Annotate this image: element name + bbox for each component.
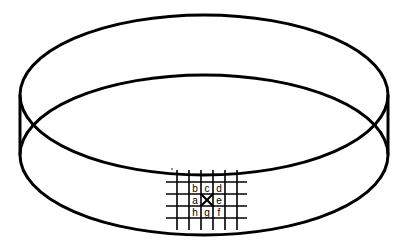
label-e: e [216, 195, 222, 206]
dish-rim-ellipse [20, 15, 388, 175]
petri-dish-diagram: b c d a e h g f [0, 0, 410, 252]
label-g: g [204, 207, 210, 218]
label-a: a [192, 195, 198, 206]
label-b: b [192, 183, 198, 194]
grid-dot [171, 168, 173, 170]
counting-grid [166, 170, 247, 230]
label-d: d [216, 183, 222, 194]
label-c: c [205, 183, 210, 194]
label-h: h [192, 207, 198, 218]
label-f: f [218, 207, 221, 218]
